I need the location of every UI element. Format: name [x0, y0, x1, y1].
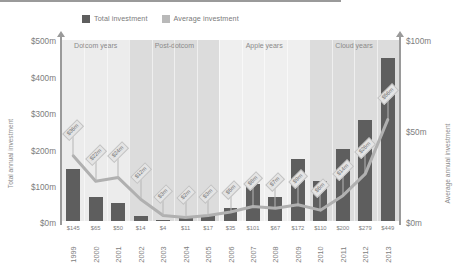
legend-label-total-investment: Total investment: [94, 14, 148, 23]
left-tick-0: $0m: [40, 219, 56, 228]
bar-value-label-2006: $35: [226, 225, 236, 231]
x-axis-year-2009: 2009: [293, 246, 302, 262]
legend-swatch-average-investment: [162, 15, 170, 23]
right-tick-100: $100m: [406, 37, 431, 46]
x-axis-year-labels: 1999200020012002200320042005200620072008…: [62, 236, 399, 272]
right-axis-tick-labels: $100m $50m $0m: [406, 0, 462, 275]
bar-value-label-2009: $172: [291, 225, 304, 231]
bar-value-label-2002: $14: [136, 225, 146, 231]
x-axis-year-2013: 2013: [383, 246, 392, 262]
x-axis-year-2012: 2012: [361, 246, 370, 262]
left-axis-title: Total annual investment: [7, 111, 14, 197]
left-tick-300: $300m: [31, 110, 56, 119]
bar-value-labels: $145$65$50$14$4$11$17$35$101$67$172$110$…: [62, 224, 399, 236]
right-axis-arrow-icon: [396, 31, 404, 37]
bar-value-label-2001: $50: [113, 225, 123, 231]
x-axis-year-1999: 1999: [69, 246, 78, 262]
legend-swatch-total-investment: [82, 15, 90, 23]
right-tick-0: $0m: [406, 219, 422, 228]
legend-label-average-investment: Average investment: [174, 14, 239, 23]
right-axis-line: [399, 36, 401, 225]
bar-value-label-2012: $279: [359, 225, 372, 231]
x-axis-year-2002: 2002: [136, 246, 145, 262]
left-axis-arrow-icon: [57, 31, 65, 37]
bar-value-label-2011: $200: [336, 225, 349, 231]
left-tick-400: $400m: [31, 74, 56, 83]
x-axis-year-2005: 2005: [204, 246, 213, 262]
legend-item-total: Total investment: [82, 14, 148, 23]
bar-value-label-2003: $4: [160, 225, 166, 231]
bar-value-label-2007: $101: [247, 225, 260, 231]
investment-chart: Total investment Average investment $500…: [0, 0, 464, 275]
bar-value-label-2000: $65: [91, 225, 101, 231]
right-axis-title: Average annual investment: [444, 121, 451, 207]
chart-legend: Total investment Average investment: [82, 14, 239, 23]
bar-value-label-2010: $110: [314, 225, 326, 231]
left-axis-line: [60, 36, 62, 225]
x-axis-year-2000: 2000: [91, 246, 100, 262]
x-axis-year-2011: 2011: [338, 247, 347, 263]
bar-value-label-2004: $11: [181, 225, 190, 231]
bar-value-label-2008: $67: [271, 225, 281, 231]
x-axis-year-2007: 2007: [248, 246, 257, 262]
x-axis-year-2004: 2004: [181, 246, 190, 262]
x-axis-year-2006: 2006: [226, 246, 235, 262]
x-axis-year-2001: 2001: [114, 246, 123, 262]
bar-value-label-2005: $17: [203, 225, 213, 231]
left-tick-100: $100m: [31, 183, 56, 192]
x-axis-year-2010: 2010: [316, 246, 325, 262]
left-tick-200: $200m: [31, 147, 56, 156]
plot-area: Dotcom yearsPost-dotcomApple yearsCloud …: [62, 40, 399, 221]
legend-item-average: Average investment: [162, 14, 239, 23]
bar-value-label-2013: $449: [381, 225, 394, 231]
left-tick-500: $500m: [31, 37, 56, 46]
x-axis-year-2003: 2003: [159, 246, 168, 262]
bar-value-label-1999: $145: [67, 225, 80, 231]
x-axis-year-2008: 2008: [271, 246, 280, 262]
right-tick-50: $50m: [406, 128, 426, 137]
